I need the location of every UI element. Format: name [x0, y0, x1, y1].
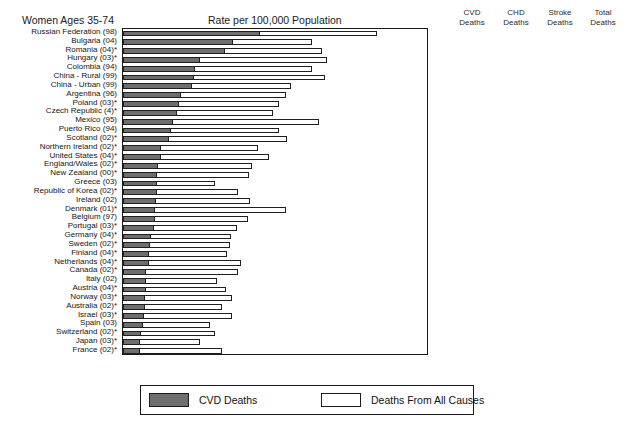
bar-row	[123, 82, 427, 91]
column-header-cvd-deaths: CVDDeaths	[449, 8, 495, 27]
bar-cvd-deaths	[123, 322, 143, 328]
bar-row	[123, 161, 427, 170]
x-axis	[122, 356, 428, 374]
bar-row	[123, 250, 427, 259]
bar-row	[123, 153, 427, 162]
bar-row	[123, 64, 427, 73]
bar-row	[123, 276, 427, 285]
bar-cvd-deaths	[123, 181, 157, 187]
bar-cvd-deaths	[123, 136, 169, 142]
bar-row	[123, 232, 427, 241]
bar-cvd-deaths	[123, 83, 192, 89]
legend-label-all-causes: Deaths From All Causes	[371, 394, 484, 406]
category-label: France (02)*	[0, 346, 120, 355]
bar-row	[123, 206, 427, 215]
bar-cvd-deaths	[123, 48, 225, 54]
bar-cvd-deaths	[123, 260, 149, 266]
bar-cvd-deaths	[123, 207, 155, 213]
bar-cvd-deaths	[123, 331, 141, 337]
legend-swatch-cvd	[149, 393, 189, 407]
bar-cvd-deaths	[123, 269, 146, 275]
bar-row	[123, 329, 427, 338]
bar-row	[123, 214, 427, 223]
bar-row	[123, 38, 427, 47]
bar-cvd-deaths	[123, 75, 194, 81]
bar-cvd-deaths	[123, 128, 171, 134]
bar-row	[123, 259, 427, 268]
chart-legend: CVD Deaths Deaths From All Causes	[140, 385, 474, 415]
bar-cvd-deaths	[123, 251, 149, 257]
bar-cvd-deaths	[123, 295, 145, 301]
bar-row	[123, 126, 427, 135]
bar-cvd-deaths	[123, 287, 146, 293]
chart-page: Women Ages 35-74 Rate per 100,000 Popula…	[0, 0, 626, 429]
bar-row	[123, 144, 427, 153]
chart-center-title: Rate per 100,000 Population	[208, 14, 342, 26]
bar-row	[123, 135, 427, 144]
bar-row	[123, 188, 427, 197]
bar-cvd-deaths	[123, 304, 145, 310]
bar-row	[123, 29, 427, 38]
bar-cvd-deaths	[123, 198, 156, 204]
bar-row	[123, 100, 427, 109]
bar-cvd-deaths	[123, 225, 154, 231]
bar-cvd-deaths	[123, 31, 260, 37]
legend-label-cvd: CVD Deaths	[199, 394, 257, 406]
bar-row	[123, 294, 427, 303]
legend-swatch-all-causes	[321, 393, 361, 407]
bar-cvd-deaths	[123, 189, 157, 195]
bar-cvd-deaths	[123, 242, 150, 248]
bar-row	[123, 108, 427, 117]
bar-row	[123, 267, 427, 276]
bar-row	[123, 312, 427, 321]
bar-cvd-deaths	[123, 313, 144, 319]
bar-row	[123, 91, 427, 100]
bar-row	[123, 223, 427, 232]
bar-rows	[123, 29, 427, 354]
bar-cvd-deaths	[123, 66, 195, 72]
bar-row	[123, 55, 427, 64]
bar-cvd-deaths	[123, 101, 179, 107]
bar-row	[123, 47, 427, 56]
column-header-chd-deaths: CHDDeaths	[493, 8, 539, 27]
bar-cvd-deaths	[123, 154, 161, 160]
bar-row	[123, 347, 427, 356]
bar-row	[123, 73, 427, 82]
bar-cvd-deaths	[123, 339, 140, 345]
bar-cvd-deaths	[123, 92, 181, 98]
bar-row	[123, 320, 427, 329]
column-header-total-deaths: TotalDeaths	[580, 8, 626, 27]
bar-row	[123, 197, 427, 206]
bar-cvd-deaths	[123, 119, 173, 125]
bar-row	[123, 179, 427, 188]
plot-area	[122, 28, 428, 355]
bar-row	[123, 241, 427, 250]
bar-cvd-deaths	[123, 172, 157, 178]
column-header-stroke-deaths: StrokeDeaths	[537, 8, 583, 27]
bar-row	[123, 303, 427, 312]
chart-left-title: Women Ages 35-74	[22, 14, 114, 26]
bar-cvd-deaths	[123, 216, 155, 222]
bar-cvd-deaths	[123, 163, 158, 169]
bar-row	[123, 338, 427, 347]
bar-row	[123, 117, 427, 126]
bar-row	[123, 285, 427, 294]
bar-row	[123, 170, 427, 179]
bar-cvd-deaths	[123, 348, 140, 354]
category-axis-labels: Russian Federation (98)Bulgaria (04)Roma…	[0, 28, 120, 355]
bar-cvd-deaths	[123, 110, 177, 116]
bar-cvd-deaths	[123, 39, 233, 45]
bar-cvd-deaths	[123, 145, 161, 151]
bar-cvd-deaths	[123, 57, 200, 63]
bar-cvd-deaths	[123, 234, 151, 240]
bar-cvd-deaths	[123, 278, 146, 284]
